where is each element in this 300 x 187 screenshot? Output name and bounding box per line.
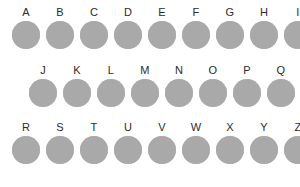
gray-circle-icon[interactable] bbox=[267, 79, 295, 107]
circle-label: S bbox=[56, 121, 64, 134]
labeled-circle-y[interactable]: Y bbox=[250, 121, 278, 164]
gray-circle-icon[interactable] bbox=[284, 136, 300, 164]
labeled-circle-o[interactable]: O bbox=[199, 64, 227, 107]
circle-label: G bbox=[226, 6, 235, 19]
labeled-circle-j[interactable]: J bbox=[29, 64, 57, 107]
gray-circle-icon[interactable] bbox=[284, 21, 300, 49]
gray-circle-icon[interactable] bbox=[182, 136, 210, 164]
gray-circle-icon[interactable] bbox=[199, 79, 227, 107]
labeled-circle-c[interactable]: C bbox=[80, 6, 108, 49]
labeled-circle-r[interactable]: R bbox=[12, 121, 40, 164]
labeled-circle-u[interactable]: U bbox=[114, 121, 142, 164]
labeled-circle-i[interactable]: I bbox=[284, 6, 300, 49]
circle-label: L bbox=[108, 64, 114, 77]
circle-label: P bbox=[243, 64, 251, 77]
labeled-circle-x[interactable]: X bbox=[216, 121, 244, 164]
gray-circle-icon[interactable] bbox=[29, 79, 57, 107]
gray-circle-icon[interactable] bbox=[182, 21, 210, 49]
labeled-circle-q[interactable]: Q bbox=[267, 64, 295, 107]
labeled-circle-n[interactable]: N bbox=[165, 64, 193, 107]
circle-label: N bbox=[175, 64, 183, 77]
gray-circle-icon[interactable] bbox=[46, 136, 74, 164]
circle-label: R bbox=[22, 121, 30, 134]
circle-label: T bbox=[91, 121, 98, 134]
circle-row-1: A B C D E F G H bbox=[12, 6, 300, 49]
gray-circle-icon[interactable] bbox=[148, 21, 176, 49]
labeled-circle-d[interactable]: D bbox=[114, 6, 142, 49]
gray-circle-icon[interactable] bbox=[250, 136, 278, 164]
labeled-circle-l[interactable]: L bbox=[97, 64, 125, 107]
labeled-circle-a[interactable]: A bbox=[12, 6, 40, 49]
gray-circle-icon[interactable] bbox=[80, 136, 108, 164]
circle-label: B bbox=[56, 6, 64, 19]
circle-label: Y bbox=[260, 121, 268, 134]
circle-label: F bbox=[193, 6, 200, 19]
gray-circle-icon[interactable] bbox=[114, 21, 142, 49]
gray-circle-icon[interactable] bbox=[216, 136, 244, 164]
circle-label: V bbox=[158, 121, 166, 134]
labeled-circle-w[interactable]: W bbox=[182, 121, 210, 164]
labeled-circle-f[interactable]: F bbox=[182, 6, 210, 49]
labeled-circle-z[interactable]: Z bbox=[284, 121, 300, 164]
circle-label: O bbox=[209, 64, 218, 77]
circle-label: E bbox=[158, 6, 166, 19]
circle-label: D bbox=[124, 6, 132, 19]
circle-label: U bbox=[124, 121, 132, 134]
labeled-circle-v[interactable]: V bbox=[148, 121, 176, 164]
gray-circle-icon[interactable] bbox=[148, 136, 176, 164]
circle-label: H bbox=[260, 6, 268, 19]
gray-circle-icon[interactable] bbox=[97, 79, 125, 107]
circle-label: I bbox=[296, 6, 299, 19]
circle-label: C bbox=[90, 6, 98, 19]
labeled-circle-m[interactable]: M bbox=[131, 64, 159, 107]
gray-circle-icon[interactable] bbox=[233, 79, 261, 107]
gray-circle-icon[interactable] bbox=[165, 79, 193, 107]
circle-row-3: R S T U V W X Y bbox=[12, 121, 300, 164]
labeled-circle-s[interactable]: S bbox=[46, 121, 74, 164]
gray-circle-icon[interactable] bbox=[63, 79, 91, 107]
circle-label: Z bbox=[295, 121, 300, 134]
gray-circle-icon[interactable] bbox=[80, 21, 108, 49]
circle-label: A bbox=[22, 6, 30, 19]
labeled-circle-e[interactable]: E bbox=[148, 6, 176, 49]
circle-label: K bbox=[73, 64, 81, 77]
circle-label: W bbox=[191, 121, 202, 134]
circle-label: M bbox=[140, 64, 149, 77]
labeled-circle-b[interactable]: B bbox=[46, 6, 74, 49]
gray-circle-icon[interactable] bbox=[131, 79, 159, 107]
labeled-circle-p[interactable]: P bbox=[233, 64, 261, 107]
circle-label: X bbox=[226, 121, 234, 134]
labeled-circle-h[interactable]: H bbox=[250, 6, 278, 49]
gray-circle-icon[interactable] bbox=[216, 21, 244, 49]
gray-circle-icon[interactable] bbox=[46, 21, 74, 49]
circle-label: Q bbox=[277, 64, 286, 77]
circle-row-2: J K L M N O P Q bbox=[29, 64, 295, 107]
labeled-circle-g[interactable]: G bbox=[216, 6, 244, 49]
circle-grid-figure: A B C D E F G H bbox=[0, 0, 300, 187]
circle-label: J bbox=[40, 64, 46, 77]
labeled-circle-t[interactable]: T bbox=[80, 121, 108, 164]
gray-circle-icon[interactable] bbox=[12, 136, 40, 164]
gray-circle-icon[interactable] bbox=[12, 21, 40, 49]
gray-circle-icon[interactable] bbox=[250, 21, 278, 49]
labeled-circle-k[interactable]: K bbox=[63, 64, 91, 107]
gray-circle-icon[interactable] bbox=[114, 136, 142, 164]
